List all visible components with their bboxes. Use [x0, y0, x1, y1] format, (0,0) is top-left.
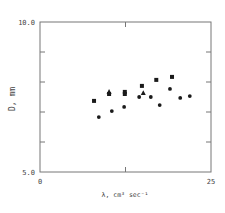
circle-marker: [188, 94, 192, 98]
circle-marker: [137, 95, 141, 99]
circle-marker: [168, 87, 172, 91]
y-axis-label: D, mm: [8, 87, 17, 111]
circle-marker: [110, 109, 114, 113]
square-marker: [170, 75, 174, 79]
circle-marker: [122, 105, 126, 109]
plot-frame: [40, 22, 211, 172]
triangle-marker: [141, 90, 146, 95]
square-marker: [140, 84, 144, 88]
triangle-marker: [107, 89, 112, 94]
square-marker: [92, 99, 96, 103]
x-tick-label-left: 0: [38, 178, 42, 186]
y-tick-label-top: 10.0: [18, 19, 35, 27]
circle-marker: [97, 115, 101, 119]
square-marker: [154, 78, 158, 82]
x-tick-label-right: 25: [207, 178, 215, 186]
y-tick-label-bottom: 5.0: [22, 169, 35, 177]
circle-marker: [178, 96, 182, 100]
scatter-chart: 10.05.0025 D, mm λ, cm³ sec⁻¹: [0, 0, 225, 213]
square-marker: [123, 92, 127, 96]
x-axis-label: λ, cm³ sec⁻¹: [102, 191, 149, 199]
plot-svg: 10.05.0025 D, mm λ, cm³ sec⁻¹: [0, 0, 225, 213]
data-markers: [92, 75, 192, 119]
circle-marker: [149, 95, 153, 99]
circle-marker: [158, 103, 162, 107]
axes: 10.05.0025: [18, 19, 215, 186]
